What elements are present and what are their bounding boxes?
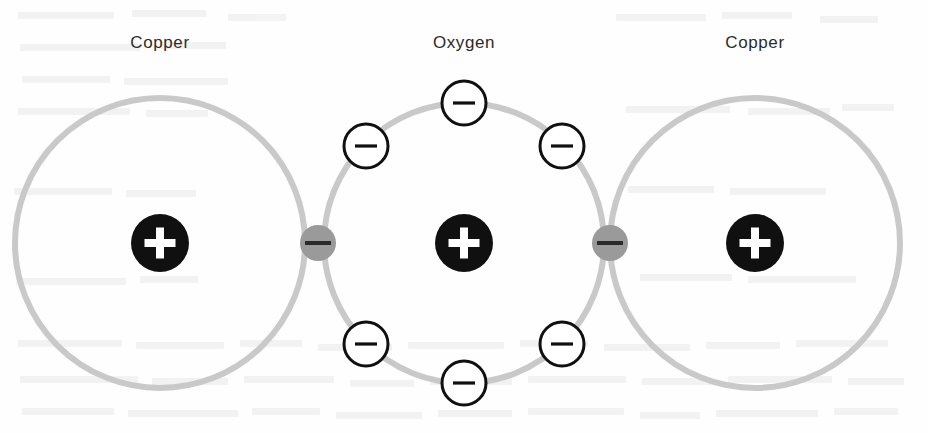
nucleus-plus-vertical <box>156 228 164 259</box>
shared-electron-minus <box>305 241 331 245</box>
label-oxygen: Oxygen <box>433 33 495 53</box>
nucleus-atom-copper-right <box>726 214 784 272</box>
electron-minus <box>551 342 573 345</box>
molecule-svg <box>0 0 928 433</box>
electron-oxygen-bottom-right <box>540 322 584 366</box>
electron-oxygen-top-center <box>442 81 486 125</box>
nucleus-atom-oxygen <box>435 214 493 272</box>
electron-minus <box>355 342 377 345</box>
electron-oxygen-bottom-center <box>442 361 486 405</box>
nucleus-plus-vertical <box>751 228 759 259</box>
nuclei-group <box>131 214 784 272</box>
electron-oxygen-top-left <box>344 124 388 168</box>
nucleus-plus-vertical <box>460 228 468 259</box>
electron-minus <box>355 144 377 147</box>
electron-minus <box>551 144 573 147</box>
nucleus-atom-copper-left <box>131 214 189 272</box>
shared-electron-left <box>300 225 336 261</box>
shared-electron-right <box>592 225 628 261</box>
electron-minus <box>453 381 475 384</box>
electron-oxygen-top-right <box>540 124 584 168</box>
shared-electron-minus <box>597 241 623 245</box>
label-copper-left: Copper <box>130 33 189 53</box>
electron-minus <box>453 101 475 104</box>
bonding-diagram: CopperOxygenCopper <box>0 0 928 433</box>
label-copper-right: Copper <box>725 33 784 53</box>
electron-oxygen-bottom-left <box>344 322 388 366</box>
